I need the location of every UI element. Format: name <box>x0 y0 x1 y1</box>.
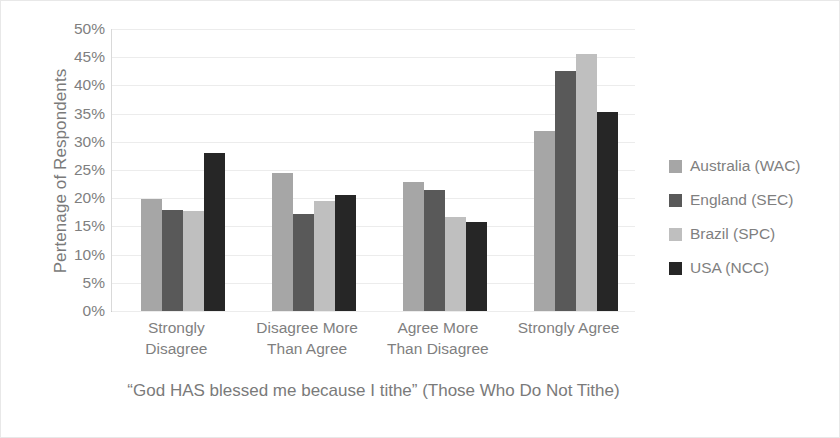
bar[interactable] <box>335 195 356 311</box>
bar-group <box>272 29 356 311</box>
bar[interactable] <box>534 131 555 311</box>
y-axis-tick-label: 15% <box>59 217 105 235</box>
y-axis-tick-label: 50% <box>59 20 105 38</box>
y-axis-tick-label: 40% <box>59 76 105 94</box>
bar[interactable] <box>576 54 597 311</box>
x-axis-category-label: Strongly Agree <box>495 317 642 338</box>
bar[interactable] <box>445 217 466 311</box>
x-axis-category-label: Disagree MoreThan Agree <box>234 317 381 359</box>
bar[interactable] <box>597 112 618 311</box>
bar[interactable] <box>555 71 576 311</box>
x-axis-category-label-line: Than Disagree <box>365 338 512 359</box>
legend-label: England (SEC) <box>690 191 793 209</box>
legend-item[interactable]: Brazil (SPC) <box>669 217 837 251</box>
chart-legend: Australia (WAC)England (SEC)Brazil (SPC)… <box>669 149 837 285</box>
legend-swatch-icon <box>669 194 682 207</box>
bar-group <box>534 29 618 311</box>
bar[interactable] <box>314 201 335 311</box>
bar[interactable] <box>204 153 225 311</box>
bar[interactable] <box>141 199 162 311</box>
x-axis-category-label-line: Than Agree <box>234 338 381 359</box>
y-axis-tick-label: 45% <box>59 48 105 66</box>
x-axis-title: “God HAS blessed me because I tithe” (Th… <box>1 381 746 401</box>
plot-area <box>111 29 635 312</box>
x-axis-category-label-line: Disagree <box>103 338 250 359</box>
x-axis-category-label-line: Strongly Agree <box>495 317 642 338</box>
y-axis-tick-labels: 0%5%10%15%20%25%30%35%40%45%50% <box>59 29 105 311</box>
legend-label: USA (NCC) <box>690 259 769 277</box>
legend-swatch-icon <box>669 228 682 241</box>
y-axis-tick-label: 25% <box>59 161 105 179</box>
y-axis-tick-label: 30% <box>59 133 105 151</box>
x-axis-category-label-line: Disagree More <box>234 317 381 338</box>
chart-figure: Pertenage of Respondents 0%5%10%15%20%25… <box>0 0 840 438</box>
bar-group <box>141 29 225 311</box>
gridline <box>112 311 635 312</box>
bar[interactable] <box>424 190 445 311</box>
bar[interactable] <box>162 210 183 311</box>
legend-label: Brazil (SPC) <box>690 225 775 243</box>
y-axis-tick-label: 5% <box>59 274 105 292</box>
y-axis-tick-label: 35% <box>59 105 105 123</box>
legend-swatch-icon <box>669 160 682 173</box>
legend-swatch-icon <box>669 262 682 275</box>
legend-item[interactable]: USA (NCC) <box>669 251 837 285</box>
legend-label: Australia (WAC) <box>690 157 801 175</box>
x-axis-category-label-line: Strongly <box>103 317 250 338</box>
x-axis-category-label: Agree MoreThan Disagree <box>365 317 512 359</box>
y-axis-tick-label: 20% <box>59 189 105 207</box>
bar[interactable] <box>272 173 293 311</box>
bar[interactable] <box>293 214 314 311</box>
x-axis-category-labels: StronglyDisagreeDisagree MoreThan AgreeA… <box>111 317 634 369</box>
y-axis-tick-label: 10% <box>59 246 105 264</box>
bar[interactable] <box>466 222 487 311</box>
bar[interactable] <box>403 182 424 311</box>
bar-group <box>403 29 487 311</box>
x-axis-category-label: StronglyDisagree <box>103 317 250 359</box>
legend-item[interactable]: England (SEC) <box>669 183 837 217</box>
bar[interactable] <box>183 211 204 311</box>
x-axis-category-label-line: Agree More <box>365 317 512 338</box>
y-axis-tick-label: 0% <box>59 302 105 320</box>
bar-series-container <box>112 29 635 311</box>
legend-item[interactable]: Australia (WAC) <box>669 149 837 183</box>
